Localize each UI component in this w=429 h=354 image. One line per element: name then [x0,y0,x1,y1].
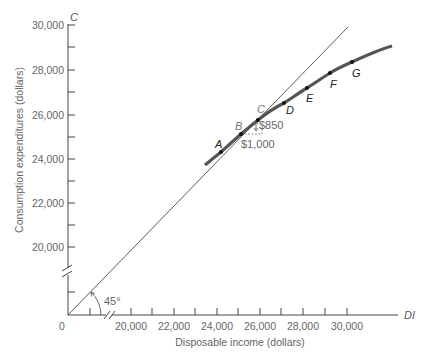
point-f [328,71,332,75]
x-tick-28000: 28,000 [287,320,319,332]
x-tick-26000: 26,000 [244,320,276,332]
label-e: E [306,92,314,104]
point-b [239,132,243,136]
point-a [219,150,223,154]
x-tick-22000: 22,000 [158,320,190,332]
angle-label: 45° [104,295,121,307]
y-tick-24000: 24,000 [32,153,64,165]
x-axis [68,308,398,319]
point-e [305,86,309,90]
x-axis-name: DI [404,309,415,321]
y-axis-title: Consumption expenditures (dollars) [13,67,25,233]
x-tick-24000: 24,000 [201,320,233,332]
x-tick-labels: 20,000 22,000 24,000 26,000 28,000 30,00… [115,320,363,332]
y-tick-28000: 28,000 [32,64,64,76]
label-c: C [257,103,265,115]
forty-five-degree-line [68,27,348,315]
consumption-curve [205,46,392,165]
y-tick-22000: 22,000 [32,197,64,209]
angle-indicator [91,292,101,315]
point-g [350,60,354,64]
consumption-chart: 30,000 28,000 26,000 24,000 22,000 20,00… [0,0,429,354]
y-tick-30000: 30,000 [32,19,64,31]
delta-consumption-label: $850 [259,119,283,131]
origin-label: 0 [59,320,65,332]
label-g: G [352,67,361,79]
y-tick-20000: 20,000 [32,241,64,253]
label-b: B [235,120,242,132]
label-f: F [330,78,338,90]
delta-arrows [254,121,258,131]
x-tick-20000: 20,000 [115,320,147,332]
label-d: D [286,104,294,116]
x-axis-title: Disposable income (dollars) [175,336,305,348]
x-tick-30000: 30,000 [331,320,363,332]
delta-income-label: $1,000 [241,138,275,150]
y-tick-26000: 26,000 [32,109,64,121]
y-tick-labels: 30,000 28,000 26,000 24,000 22,000 20,00… [32,19,64,253]
y-axis-name: C [70,11,78,23]
label-a: A [214,138,222,150]
